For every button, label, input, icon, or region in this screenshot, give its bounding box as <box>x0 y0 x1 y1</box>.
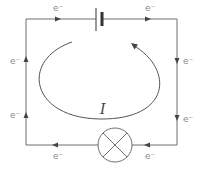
circuit-wires <box>26 19 177 145</box>
arrow-left-lower <box>24 112 29 118</box>
electron-label-left-lower: e⁻ <box>10 110 21 120</box>
battery-negative-plate <box>101 12 104 26</box>
arrow-right-upper <box>175 58 180 64</box>
electron-label-top-left: e⁻ <box>53 3 64 13</box>
electron-label-bottom-left: e⁻ <box>53 151 64 161</box>
lamp-icon <box>98 128 132 162</box>
battery-icon <box>96 8 104 31</box>
current-label: I <box>99 101 106 117</box>
arrow-left-upper <box>24 56 29 62</box>
arrow-bottom-left <box>52 143 58 148</box>
arrow-top-left <box>55 17 61 22</box>
current-arrowhead <box>131 43 138 50</box>
circuit-diagram: e⁻ e⁻ e⁻ e⁻ e⁻ e⁻ e⁻ e⁻ I <box>0 0 200 174</box>
electron-label-right-upper: e⁻ <box>183 56 194 66</box>
electron-arrows <box>24 17 180 148</box>
electron-label-bottom-right: e⁻ <box>145 151 156 161</box>
arrow-right-lower <box>175 115 180 121</box>
electron-label-top-right: e⁻ <box>145 3 156 13</box>
arrow-top-right <box>145 17 151 22</box>
arrow-bottom-right <box>144 143 150 148</box>
electron-label-right-lower: e⁻ <box>183 114 194 124</box>
electron-label-left-upper: e⁻ <box>10 56 21 66</box>
